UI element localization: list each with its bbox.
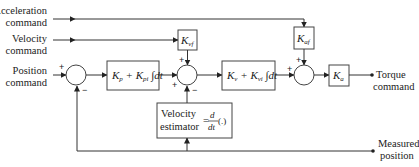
svg-text:Velocity: Velocity bbox=[161, 108, 197, 119]
svg-text:dt: dt bbox=[208, 122, 216, 132]
velocity-pi-controller-block: Kv + Kvi ∫dt bbox=[222, 61, 278, 90]
measured-position-label: Measured position bbox=[378, 138, 419, 161]
kaf-gain-block: Kaf bbox=[294, 27, 314, 49]
svg-text:Position: Position bbox=[13, 65, 48, 76]
svg-text:Kp + Kpi ∫dt: Kp + Kpi ∫dt bbox=[111, 69, 164, 83]
svg-text:Kv + Kvi ∫dt: Kv + Kvi ∫dt bbox=[226, 69, 278, 83]
sum2-top-plus-sign: + bbox=[179, 55, 184, 65]
svg-text:command: command bbox=[6, 77, 48, 88]
svg-text:command: command bbox=[6, 17, 48, 28]
sum1-minus-sign: − bbox=[82, 85, 87, 95]
position-error-summing-junction bbox=[66, 65, 86, 85]
sum2-left-plus-sign: + bbox=[172, 80, 177, 90]
sum1-plus-sign: + bbox=[59, 62, 64, 72]
measured-position-terminal bbox=[371, 149, 375, 153]
torque-summing-junction bbox=[294, 65, 314, 85]
svg-text:command: command bbox=[373, 81, 415, 92]
svg-text:position: position bbox=[380, 150, 415, 161]
velocity-error-summing-junction bbox=[177, 65, 197, 85]
sum2-minus-sign: − bbox=[192, 85, 197, 95]
kvf-gain-block: Kvf bbox=[178, 30, 197, 50]
torque-command-label: Torque command bbox=[373, 69, 415, 92]
velocity-estimator-block: Velocity estimator = d dt (.) bbox=[157, 103, 232, 138]
svg-text:command: command bbox=[6, 45, 48, 56]
velocity-command-label: Velocity command bbox=[6, 33, 48, 56]
acceleration-command-label: Acceleration command bbox=[0, 5, 48, 28]
svg-text:Velocity: Velocity bbox=[12, 33, 48, 44]
sum3-left-plus-sign: + bbox=[287, 64, 292, 74]
ka-gain-block: Ka bbox=[329, 65, 349, 86]
svg-text:(.): (.) bbox=[218, 116, 226, 126]
control-diagram: Acceleration command Velocity command Po… bbox=[0, 0, 419, 167]
svg-text:d: d bbox=[210, 110, 215, 120]
position-pi-controller-block: Kp + Kpi ∫dt bbox=[107, 61, 164, 90]
svg-text:Acceleration: Acceleration bbox=[0, 5, 48, 16]
svg-text:Measured: Measured bbox=[378, 138, 419, 149]
position-command-label: Position command bbox=[6, 65, 48, 88]
svg-text:Torque: Torque bbox=[376, 69, 406, 80]
acceleration-feedforward-wire bbox=[53, 19, 304, 27]
sum3-top-plus-sign: + bbox=[296, 55, 301, 65]
svg-text:estimator: estimator bbox=[160, 121, 200, 132]
torque-output-terminal bbox=[370, 73, 374, 77]
